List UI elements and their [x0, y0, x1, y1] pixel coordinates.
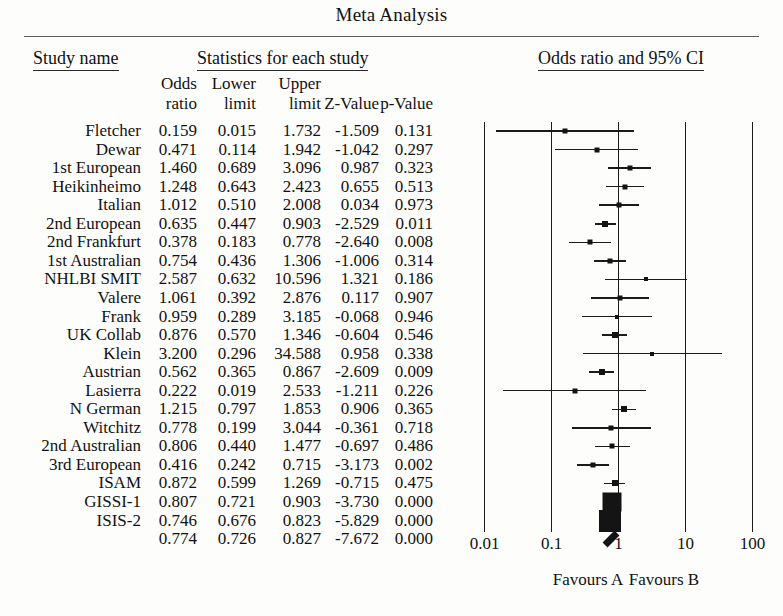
- point-estimate-marker: [621, 406, 627, 412]
- table-cell-name: 1st European: [0, 159, 141, 178]
- table-cell-lo: 0.632: [197, 270, 256, 289]
- table-cell-lo: 0.570: [197, 326, 256, 345]
- table-cell-or: 0.959: [141, 308, 197, 327]
- table-cell-hi: 0.823: [256, 512, 321, 531]
- table-cell-name: Witchitz: [0, 419, 141, 438]
- table-cell-z: 0.655: [321, 178, 379, 197]
- table-cell-name: Frank: [0, 308, 141, 327]
- table-cell-lo: 0.019: [197, 382, 256, 401]
- table-row: Lasierra0.2220.0192.533-1.2110.226: [0, 382, 440, 401]
- table-cell-lo: 0.676: [197, 512, 256, 531]
- table-cell-lo: 0.726: [197, 530, 256, 549]
- table-cell-name: 2nd Australian: [0, 437, 141, 456]
- gridline-100: [752, 122, 754, 532]
- table-cell-or: 0.635: [141, 215, 197, 234]
- table-cell-p: 0.546: [379, 326, 433, 345]
- table-cell-hi: 2.423: [256, 178, 321, 197]
- table-cell-or: 1.061: [141, 289, 197, 308]
- point-estimate-marker: [616, 203, 621, 208]
- table-row: ISIS-20.7460.6760.823-5.8290.000: [0, 512, 440, 531]
- table-cell-hi: 0.903: [256, 215, 321, 234]
- table-cell-lo: 0.797: [197, 400, 256, 419]
- point-estimate-marker: [599, 510, 621, 532]
- table-cell-z: 0.958: [321, 345, 379, 364]
- table-cell-lo: 0.289: [197, 308, 256, 327]
- favours-a-label: Favours A: [553, 570, 623, 590]
- table-row: Witchitz0.7780.1993.044-0.3610.718: [0, 419, 440, 438]
- table-row: 1st Australian0.7540.4361.306-1.0060.314: [0, 252, 440, 271]
- table-row: ISAM0.8720.5991.269-0.7150.475: [0, 474, 440, 493]
- table-row: NHLBI SMIT2.5870.63210.5961.3210.186: [0, 270, 440, 289]
- table-cell-lo: 0.440: [197, 437, 256, 456]
- table-cell-hi: 1.853: [256, 400, 321, 419]
- axis-label-100: 100: [740, 534, 766, 554]
- table-cell-or: 0.222: [141, 382, 197, 401]
- table-cell-or: 0.778: [141, 419, 197, 438]
- table-row: UK Collab0.8760.5701.346-0.6040.546: [0, 326, 440, 345]
- table-cell-name: Dewar: [0, 141, 141, 160]
- axis-label-10: 10: [677, 534, 694, 554]
- table-cell-name: Italian: [0, 196, 141, 215]
- table-cell-name: 2nd European: [0, 215, 141, 234]
- table-cell-z: -0.715: [321, 474, 379, 493]
- point-estimate-marker: [650, 352, 654, 356]
- gridline-0.01: [484, 122, 486, 532]
- point-estimate-marker: [599, 369, 605, 375]
- table-cell-z: -0.697: [321, 437, 379, 456]
- table-cell-hi: 1.306: [256, 252, 321, 271]
- table-cell-p: 0.000: [379, 512, 433, 531]
- point-estimate-marker: [590, 462, 595, 467]
- table-cell-lo: 0.183: [197, 233, 256, 252]
- table-cell-z: -0.361: [321, 419, 379, 438]
- table-cell-lo: 0.599: [197, 474, 256, 493]
- point-estimate-marker: [622, 184, 627, 189]
- table-cell-p: 0.000: [379, 530, 433, 549]
- table-cell-hi: 3.185: [256, 308, 321, 327]
- table-cell-p: 0.946: [379, 308, 433, 327]
- table-cell-or: 1.215: [141, 400, 197, 419]
- table-cell-or: 0.416: [141, 456, 197, 475]
- table-cell-z: 1.321: [321, 270, 379, 289]
- table-cell-z: -5.829: [321, 512, 379, 531]
- table-cell-lo: 0.199: [197, 419, 256, 438]
- table-cell-z: -3.730: [321, 493, 379, 512]
- table-cell-z: 0.117: [321, 289, 379, 308]
- table-row: 0.7740.7260.827-7.6720.000: [0, 530, 440, 549]
- meta-analysis-figure: Meta Analysis Study name Statistics for …: [0, 0, 783, 616]
- table-cell-z: 0.906: [321, 400, 379, 419]
- table-cell-or: 0.807: [141, 493, 197, 512]
- table-cell-or: 0.806: [141, 437, 197, 456]
- table-cell-or: 0.872: [141, 474, 197, 493]
- table-cell-or: 0.471: [141, 141, 197, 160]
- point-estimate-marker: [612, 480, 618, 486]
- forest-plot: 0.010.1110100Favours AFavours B: [440, 0, 783, 616]
- table-cell-p: 0.186: [379, 270, 433, 289]
- point-estimate-marker: [612, 332, 618, 338]
- table-cell-or: 0.562: [141, 363, 197, 382]
- point-estimate-marker: [572, 388, 577, 393]
- table-cell-hi: 34.588: [256, 345, 321, 364]
- table-cell-hi: 3.096: [256, 159, 321, 178]
- table-cell-name: 2nd Frankfurt: [0, 233, 141, 252]
- table-cell-or: 3.200: [141, 345, 197, 364]
- table-cell-name: ISAM: [0, 474, 141, 493]
- gridline-1: [618, 122, 620, 532]
- statistics-table: Fletcher0.1590.0151.732-1.5090.131Dewar0…: [0, 0, 440, 616]
- axis-tick-100: [752, 507, 754, 531]
- point-estimate-marker: [609, 425, 614, 430]
- table-cell-name: Lasierra: [0, 382, 141, 401]
- table-cell-lo: 0.015: [197, 122, 256, 141]
- point-estimate-marker: [615, 315, 619, 319]
- table-cell-lo: 0.721: [197, 493, 256, 512]
- table-cell-name: Heikinheimo: [0, 178, 141, 197]
- table-cell-name: 1st Australian: [0, 252, 141, 271]
- table-row: 2nd Australian0.8060.4401.477-0.6970.486: [0, 437, 440, 456]
- table-cell-p: 0.011: [379, 215, 433, 234]
- table-cell-name: Fletcher: [0, 122, 141, 141]
- table-cell-z: -0.604: [321, 326, 379, 345]
- table-cell-name: NHLBI SMIT: [0, 270, 141, 289]
- table-cell-p: 0.000: [379, 493, 433, 512]
- axis-label-0.1: 0.1: [541, 534, 562, 554]
- table-cell-z: -3.173: [321, 456, 379, 475]
- table-cell-p: 0.475: [379, 474, 433, 493]
